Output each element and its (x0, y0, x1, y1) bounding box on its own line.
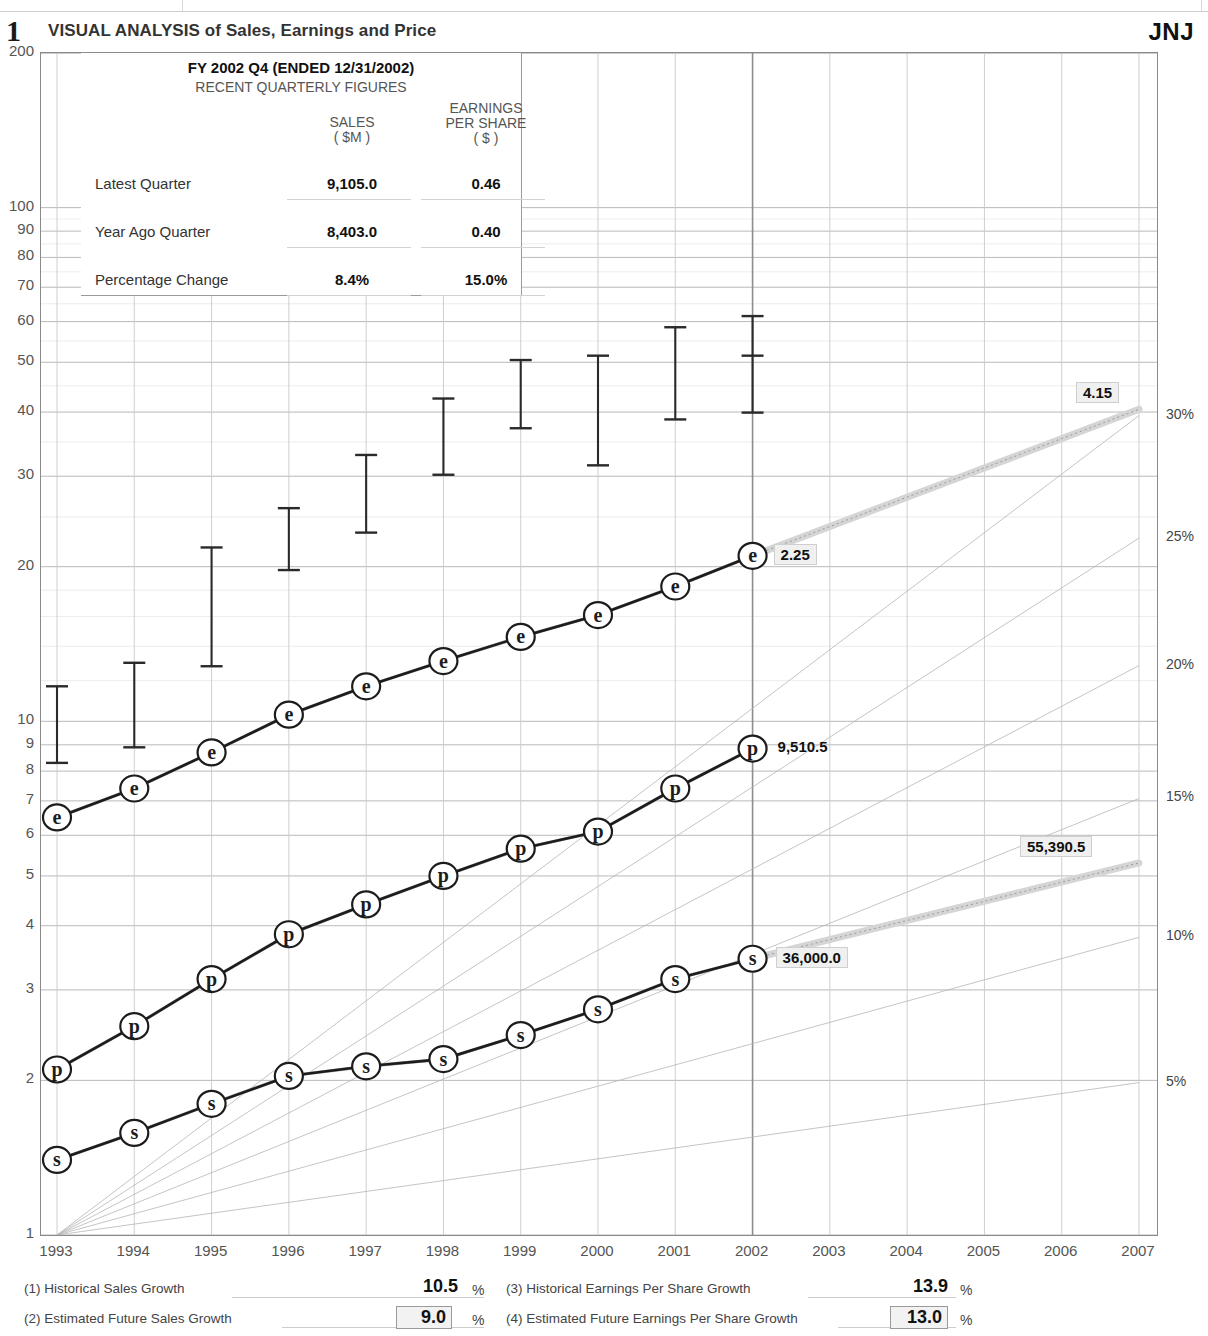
page-title: VISUAL ANALYSIS of Sales, Earnings and P… (48, 21, 436, 41)
data-point-marker-s[interactable]: s (429, 1046, 457, 1072)
price-range-bar (355, 455, 377, 533)
price-range-bar (587, 356, 609, 466)
marker-letter: s (130, 1121, 138, 1143)
y-axis-tick-50: 50 (0, 351, 34, 368)
x-axis-year-2002: 2002 (722, 1242, 782, 1259)
x-axis-year-2001: 2001 (644, 1242, 704, 1259)
data-point-marker-p[interactable]: p (739, 736, 767, 762)
quarterly-row-2-sales: 8.4% (287, 271, 417, 288)
data-point-marker-s[interactable]: s (120, 1120, 148, 1146)
footer-label-historical-sales-growth: (1) Historical Sales Growth (24, 1281, 185, 1296)
data-point-marker-s[interactable]: s (198, 1091, 226, 1117)
price-range-bar (123, 663, 145, 748)
projection-line-sales-projection (753, 863, 1139, 959)
marker-letter: s (440, 1048, 448, 1070)
right-axis-tick-30%: 30% (1166, 406, 1208, 422)
data-point-marker-e[interactable]: e (275, 702, 303, 728)
data-point-marker-e[interactable]: e (120, 775, 148, 801)
x-axis-year-1993: 1993 (26, 1242, 86, 1259)
footer-value-estimated-future-sales-growth[interactable]: 9.0 (396, 1306, 452, 1329)
data-point-marker-p[interactable]: p (507, 836, 535, 862)
y-axis-tick-7: 7 (0, 790, 34, 807)
data-point-marker-s[interactable]: s (352, 1053, 380, 1079)
series-line-s (57, 959, 753, 1160)
y-axis-tick-80: 80 (0, 246, 34, 263)
marker-letter: s (594, 998, 602, 1020)
quarterly-panel-subtitle: RECENT QUARTERLY FIGURES (81, 79, 521, 95)
series-trend-e (57, 556, 753, 818)
data-point-marker-e[interactable]: e (661, 574, 689, 600)
data-point-marker-p[interactable]: p (661, 775, 689, 801)
marker-letter: e (130, 777, 139, 799)
marker-letter: s (362, 1055, 370, 1077)
quarterly-col-header-sales-line2: ( $M ) (287, 130, 417, 145)
data-point-marker-p[interactable]: p (352, 891, 380, 917)
data-point-marker-p[interactable]: p (43, 1056, 71, 1082)
quarterly-row-1-eps-rule (421, 247, 545, 248)
right-axis-tick-25%: 25% (1166, 528, 1208, 544)
price-range-bar (201, 547, 223, 666)
marker-letter: e (284, 703, 293, 725)
top-cut-strip-inner (182, 0, 1202, 11)
quarterly-row-label-2: Percentage Change (95, 271, 228, 288)
y-axis-tick-8: 8 (0, 760, 34, 777)
x-axis-year-2005: 2005 (953, 1242, 1013, 1259)
data-point-marker-e[interactable]: e (739, 543, 767, 569)
data-point-marker-p[interactable]: p (429, 863, 457, 889)
quarterly-col-header-sales-line1: SALES (287, 115, 417, 130)
marker-letter: p (438, 864, 449, 887)
data-point-marker-s[interactable]: s (739, 946, 767, 972)
data-point-marker-e[interactable]: e (198, 739, 226, 765)
data-point-marker-p[interactable]: p (120, 1013, 148, 1039)
callout-sales-latest: 36,000.0 (776, 947, 848, 968)
marker-letter: p (283, 923, 294, 946)
x-axis-year-2000: 2000 (567, 1242, 627, 1259)
data-point-marker-s[interactable]: s (507, 1022, 535, 1048)
data-point-marker-p[interactable]: p (275, 921, 303, 947)
data-point-marker-e[interactable]: e (584, 602, 612, 628)
y-axis-tick-5: 5 (0, 865, 34, 882)
x-axis-year-1998: 1998 (412, 1242, 472, 1259)
data-point-marker-p[interactable]: p (584, 819, 612, 845)
x-axis-year-2007: 2007 (1108, 1242, 1168, 1259)
footer-rule-2 (282, 1327, 484, 1328)
y-axis-tick-1: 1 (0, 1224, 34, 1241)
marker-letter: s (517, 1024, 525, 1046)
quarterly-row-label-1: Year Ago Quarter (95, 223, 210, 240)
data-point-marker-e[interactable]: e (507, 624, 535, 650)
data-point-marker-s[interactable]: s (661, 966, 689, 992)
quarterly-col-header-eps-line2: PER SHARE (421, 116, 551, 131)
y-axis-tick-10: 10 (0, 710, 34, 727)
data-point-marker-e[interactable]: e (43, 804, 71, 830)
footer-value-estimated-future-eps-growth[interactable]: 13.0 (890, 1306, 948, 1329)
data-point-marker-e[interactable]: e (352, 673, 380, 699)
footer-unit-4: % (960, 1312, 972, 1328)
quarterly-panel-title: FY 2002 Q4 (ENDED 12/31/2002) (81, 59, 521, 76)
data-point-marker-e[interactable]: e (429, 648, 457, 674)
quarterly-row-0-eps: 0.46 (421, 175, 551, 192)
marker-letter: e (53, 806, 62, 828)
data-point-marker-s[interactable]: s (275, 1063, 303, 1089)
quarterly-col-header-sales: SALES ( $M ) (287, 115, 417, 145)
x-axis-year-1996: 1996 (258, 1242, 318, 1259)
data-point-marker-p[interactable]: p (198, 966, 226, 992)
marker-letter: e (207, 741, 216, 763)
y-axis-tick-200: 200 (0, 42, 34, 59)
data-point-marker-s[interactable]: s (43, 1147, 71, 1173)
marker-letter: s (749, 947, 757, 969)
footer-value-historical-eps-growth: 13.9 (884, 1276, 948, 1297)
top-cut-strip (0, 0, 1208, 12)
marker-letter: p (129, 1015, 140, 1038)
x-axis-year-2003: 2003 (799, 1242, 859, 1259)
marker-letter: s (671, 968, 679, 990)
quarterly-col-header-eps-line1: EARNINGS (421, 101, 551, 116)
right-axis-tick-10%: 10% (1166, 927, 1208, 943)
price-range-bar (432, 399, 454, 475)
footer-unit-3: % (960, 1282, 972, 1298)
quarterly-row-0-eps-rule (421, 199, 545, 200)
quarterly-col-header-eps-line3: ( $ ) (421, 131, 551, 146)
data-point-marker-s[interactable]: s (584, 996, 612, 1022)
series-line-p (57, 749, 753, 1070)
y-axis-tick-30: 30 (0, 465, 34, 482)
quarterly-row-1-sales-rule (287, 247, 411, 248)
